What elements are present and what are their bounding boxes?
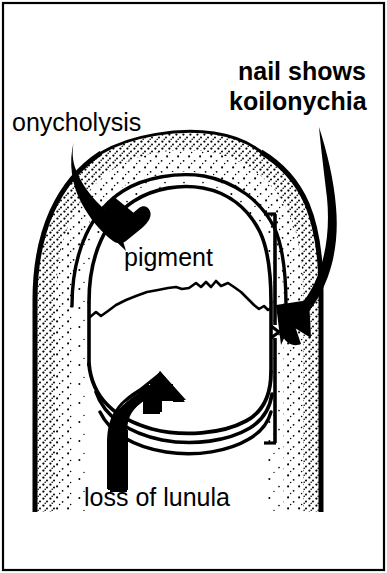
nail-diagram-svg: onycholysis nail shows koilonychia pigme… xyxy=(0,0,387,573)
label-pigment: pigment xyxy=(124,243,213,271)
figure-root: onycholysis nail shows koilonychia pigme… xyxy=(0,0,387,573)
label-onycholysis: onycholysis xyxy=(12,108,141,136)
label-koilonychia-line2: koilonychia xyxy=(229,87,368,115)
label-loss-of-lunula: loss of lunula xyxy=(84,483,230,511)
label-koilonychia-line1: nail shows xyxy=(238,57,366,85)
